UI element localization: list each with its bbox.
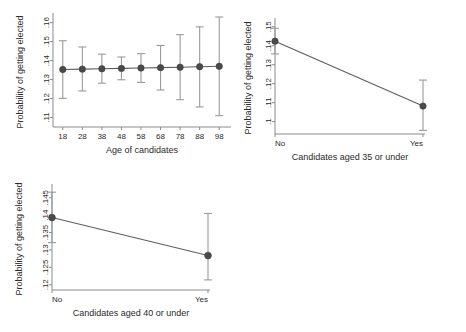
y-tick-label: .12 <box>42 92 51 104</box>
data-point-marker <box>79 66 85 72</box>
y-tick-label: .125 <box>41 259 50 275</box>
x-tick-label: 88 <box>195 132 204 141</box>
y-tick-label: .13 <box>264 59 273 71</box>
y-tick-label: .13 <box>41 244 50 256</box>
chart-age-of-candidates: .11.12.13.14.15.16182838485868788898Age … <box>0 0 240 168</box>
data-point-marker <box>177 64 183 70</box>
data-point-marker <box>99 66 105 72</box>
panel-aged-35-or-under: .1.11.12.13.14.15NoYesCandidates aged 35… <box>240 0 466 168</box>
panel-age-of-candidates: .11.12.13.14.15.16182838485868788898Age … <box>0 0 240 168</box>
data-point-marker <box>60 66 66 72</box>
y-tick-label: .15 <box>42 36 51 48</box>
data-point-marker <box>272 38 278 44</box>
y-axis-title: Probability of getting elected <box>15 15 25 128</box>
y-tick-label: .13 <box>42 73 51 85</box>
x-axis-title: Age of candidates <box>106 145 179 155</box>
x-tick-label: 58 <box>137 132 146 141</box>
data-point-marker <box>216 63 222 69</box>
x-axis-title: Candidates aged 40 or under <box>73 308 190 318</box>
y-axis-title: Probability of getting elected <box>243 21 253 134</box>
y-tick-label: .15 <box>264 21 273 33</box>
data-point-marker <box>205 252 212 259</box>
data-point-marker <box>138 65 144 71</box>
data-point-marker <box>118 65 124 71</box>
y-axis-title: Probability of getting elected <box>14 182 24 295</box>
data-point-marker <box>420 103 426 109</box>
x-axis-title: Candidates aged 35 or under <box>292 152 409 162</box>
x-tick-label: No <box>52 295 63 304</box>
x-tick-label: Yes <box>195 295 208 304</box>
x-tick-label: 98 <box>215 132 224 141</box>
y-tick-label: .12 <box>264 78 273 90</box>
y-tick-label: .12 <box>41 279 50 291</box>
confidence-interval <box>204 213 212 279</box>
fit-line <box>275 41 423 106</box>
x-tick-label: 48 <box>117 132 126 141</box>
y-tick-label: .11 <box>264 97 273 108</box>
y-tick-label: .16 <box>42 17 51 29</box>
y-tick-label: .14 <box>42 55 51 67</box>
x-tick-label: 28 <box>78 132 87 141</box>
x-tick-label: 38 <box>97 132 106 141</box>
x-tick-label: 68 <box>156 132 165 141</box>
x-tick-label: 18 <box>58 132 67 141</box>
x-tick-label: No <box>275 139 286 148</box>
fit-line <box>52 218 208 256</box>
data-point-marker <box>49 214 56 221</box>
chart-aged-35-or-under: .1.11.12.13.14.15NoYesCandidates aged 35… <box>240 0 466 168</box>
y-tick-label: .1 <box>264 118 273 125</box>
data-point-marker <box>157 64 163 70</box>
data-point-marker <box>196 63 202 69</box>
x-tick-label: Yes <box>410 139 423 148</box>
panel-aged-40-or-under: .12.125.13.135.14.145NoYesCandidates age… <box>0 166 250 332</box>
chart-aged-40-or-under: .12.125.13.135.14.145NoYesCandidates age… <box>0 166 250 332</box>
y-tick-label: .135 <box>41 224 50 240</box>
x-tick-label: 78 <box>176 132 185 141</box>
y-tick-label: .11 <box>42 112 51 123</box>
